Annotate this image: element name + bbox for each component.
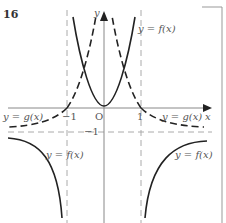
label-f-top: y = f(x) <box>137 23 176 34</box>
graph: y x O −1 1 −1 y = f(x) y = g(x) y = g(x)… <box>0 0 226 223</box>
y-axis-arrow-icon <box>100 11 108 21</box>
label-origin: O <box>95 111 103 122</box>
label-y-neg1: −1 <box>84 126 99 137</box>
label-f-bottom-left: y = f(x) <box>45 149 84 160</box>
label-x-pos1: 1 <box>137 111 143 122</box>
label-x-axis: x <box>205 111 211 122</box>
label-g-left: y = g(x) <box>2 111 43 122</box>
label-f-bottom-right: y = f(x) <box>174 149 213 160</box>
label-g-right: y = g(x) <box>161 111 202 122</box>
label-y-axis: y <box>93 7 100 18</box>
label-x-neg1: −1 <box>62 111 77 122</box>
